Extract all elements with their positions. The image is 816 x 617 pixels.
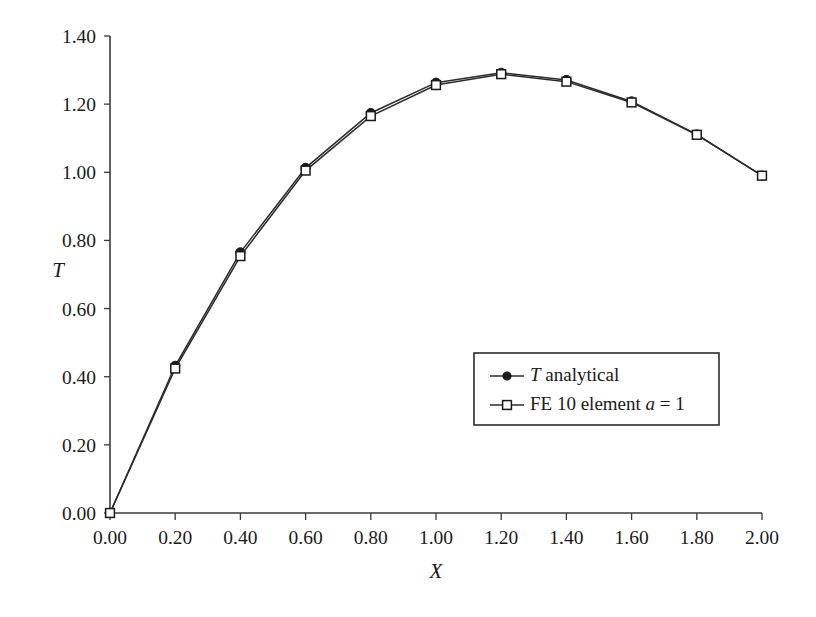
- x-tick-label: 1.20: [484, 527, 518, 548]
- series-line: [110, 73, 762, 513]
- data-point-marker-square: [432, 81, 441, 90]
- x-tick-label: 0.80: [354, 527, 388, 548]
- x-tick-label: 0.40: [223, 527, 257, 548]
- y-tick-label: 0.40: [62, 367, 96, 388]
- x-tick-label: 0.60: [289, 527, 323, 548]
- x-axis-ticks: [110, 513, 762, 520]
- legend-label: FE 10 element a = 1: [530, 393, 685, 414]
- y-axis-tick-labels: 0.000.200.400.600.801.001.201.40: [62, 26, 96, 524]
- data-point-marker-square: [692, 130, 701, 139]
- y-tick-label: 1.00: [62, 162, 96, 183]
- line-chart: 0.000.200.400.600.801.001.201.40 0.000.2…: [0, 0, 816, 617]
- y-tick-label: 0.60: [62, 299, 96, 320]
- data-point-marker-square: [758, 171, 767, 180]
- legend-marker-square: [503, 401, 512, 410]
- x-tick-label: 1.40: [549, 527, 583, 548]
- y-tick-label: 0.80: [62, 230, 96, 251]
- y-tick-label: 1.40: [62, 26, 96, 47]
- y-tick-label: 1.20: [62, 94, 96, 115]
- data-point-marker-square: [497, 70, 506, 79]
- x-tick-label: 2.00: [745, 527, 779, 548]
- x-tick-label: 0.00: [93, 527, 127, 548]
- data-point-marker-square: [171, 364, 180, 373]
- x-tick-label: 0.20: [158, 527, 192, 548]
- x-axis-title: X: [429, 559, 444, 583]
- data-point-marker-square: [627, 98, 636, 107]
- legend-label: T analytical: [530, 364, 619, 385]
- data-point-marker-square: [236, 252, 245, 261]
- chart-legend: T analyticalFE 10 element a = 1: [474, 353, 719, 425]
- series-line: [110, 74, 762, 513]
- y-axis-ticks: [104, 36, 110, 513]
- x-tick-label: 1.60: [615, 527, 649, 548]
- data-point-marker-square: [106, 509, 115, 518]
- chart-figure: 0.000.200.400.600.801.001.201.40 0.000.2…: [0, 0, 816, 617]
- series-group: [105, 68, 766, 517]
- x-axis-tick-labels: 0.000.200.400.600.801.001.201.401.601.80…: [93, 527, 779, 548]
- data-point-marker-square: [562, 77, 571, 86]
- legend-marker-circle: [502, 371, 511, 380]
- data-point-marker-square: [366, 112, 375, 121]
- series-2: [106, 70, 767, 518]
- y-axis-title: T: [52, 258, 65, 282]
- series-1: [105, 68, 766, 517]
- x-tick-label: 1.00: [419, 527, 453, 548]
- data-point-marker-square: [301, 166, 310, 175]
- y-tick-label: 0.20: [62, 435, 96, 456]
- y-tick-label: 0.00: [62, 503, 96, 524]
- x-tick-label: 1.80: [680, 527, 714, 548]
